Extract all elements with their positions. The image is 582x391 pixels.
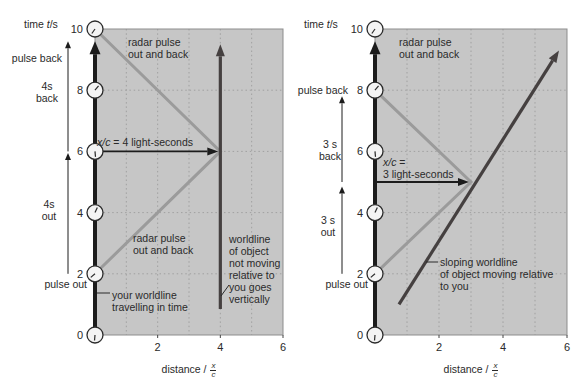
measure-line1-right: x/c = [383,156,454,168]
pulse-back-label-right: pulse back [296,84,348,96]
span-out-label-right: 3 s out [309,214,347,238]
measure-var-right: x/c [383,156,396,168]
x-tick-label: 4 [500,341,506,353]
y-tick-label: 8 [77,84,83,96]
measure-rest-right: = [396,156,405,168]
span-out-label-left: 4s out [31,198,67,222]
y-tick-label: 8 [357,84,363,96]
span-back-label-right: 3 s back [311,138,349,162]
distance-axis-pre: distance / [162,363,210,375]
time-axis-label-right: time t/s [304,18,338,30]
y-tick-label: 0 [357,329,363,341]
distance-fraction: xc [210,362,216,379]
margin-span-arrow-head [339,187,345,194]
x-tick-label: 6 [564,341,570,353]
time-axis-post: /s [50,18,58,30]
x-tick-label: 6 [280,341,286,353]
spacetime-diagrams: 02468102460246810246 time t/s pulse back… [0,0,582,391]
fraction-denominator: c [493,371,497,379]
margin-span-arrow-head [65,153,71,160]
measure-line2-right: 3 light-seconds [383,168,454,180]
distance-axis-label-right: distance / xc [434,362,508,379]
y-tick-label: 10 [71,23,83,35]
pulse-out-label-left: pulse out [31,278,87,290]
y-tick-label: 0 [77,329,83,341]
span-back-label-left: 4s back [29,80,65,104]
x-tick-label: 2 [436,341,442,353]
pulse-out-label-right: pulse out [312,278,368,290]
margin-span-arrow-head [65,41,71,48]
distance-axis-label-left: distance / xc [152,362,226,379]
y-tick-label: 4 [77,207,83,219]
x-tick-label: 4 [217,341,223,353]
worldline-note-left: worldline of object not moving relative … [229,233,280,305]
radar-pulse-label-bottom-left: radar pulse out and back [133,232,193,256]
your-worldline-label: your worldline travelling in time [112,289,188,313]
time-axis-label-left: time t/s [24,18,58,30]
measure-label-left: x/c = 4 light-seconds [97,136,193,148]
y-tick-label: 6 [357,145,363,157]
y-tick-label: 10 [351,23,363,35]
time-axis-post: /s [330,18,338,30]
x-tick-label: 2 [155,341,161,353]
measure-label-right: x/c =3 light-seconds [383,156,454,180]
fraction-denominator: c [211,371,215,379]
pulse-back-label-left: pulse back [10,52,62,64]
sloping-worldline-note: sloping worldline of object moving relat… [440,256,560,292]
distance-axis-pre: distance / [444,363,492,375]
measure-var-left: x/c [97,136,110,148]
distance-fraction: xc [492,362,498,379]
time-axis-pre: time [304,18,327,30]
spacetime-chart-svg: 02468102460246810246 [0,0,582,391]
radar-pulse-label-top-right: radar pulse out and back [399,36,459,60]
margin-span-arrow-head [339,96,345,103]
y-tick-label: 4 [357,207,363,219]
radar-pulse-label-top-left: radar pulse out and back [128,36,188,60]
y-tick-label: 6 [77,145,83,157]
measure-rest-left: = 4 light-seconds [110,136,193,148]
time-axis-pre: time [24,18,47,30]
